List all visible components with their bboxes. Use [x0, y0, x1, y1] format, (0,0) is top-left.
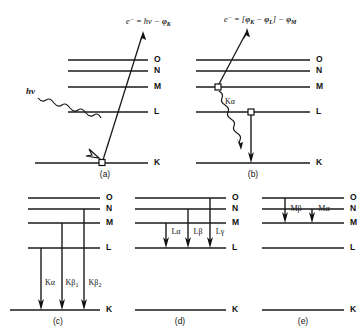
shell-label-M: M: [106, 217, 113, 227]
transition-label-L-alpha: Lα: [171, 227, 181, 236]
panel-a: O N M L K hν e− = hν − φK (a): [26, 16, 172, 179]
auger-equation: e− = [φK − φL] − φM: [224, 14, 297, 25]
panel-e: O N M L K Mβ Mα (e): [262, 192, 357, 326]
vacancy-square-M: [215, 84, 221, 90]
panel-caption-a: (a): [100, 169, 111, 179]
shell-label-K: K: [154, 157, 161, 167]
shell-label-K: K: [316, 157, 323, 167]
shell-label-N: N: [316, 65, 322, 75]
shell-label-O: O: [232, 192, 239, 202]
shell-label-L: L: [350, 242, 355, 252]
shell-label-M: M: [350, 217, 357, 227]
transition-label-L-gamma: Lγ: [216, 227, 225, 236]
panel-c: O N M L K Kα Kβ1 Kβ2 (c): [10, 192, 113, 326]
photoelectron-arrowhead: [140, 31, 147, 43]
transition-label-M-beta: Mβ: [290, 204, 301, 213]
incoming-photon-label: hν: [26, 86, 36, 96]
figure-container: O N M L K hν e− = hν − φK (a) O N M L K: [0, 0, 362, 334]
shell-label-L: L: [106, 242, 111, 252]
shell-label-M: M: [154, 81, 161, 91]
incoming-photon-arrowhead: [86, 149, 99, 158]
incoming-photon-wave: [38, 98, 101, 118]
energy-level-diagram: O N M L K hν e− = hν − φK (a) O N M L K: [0, 0, 362, 334]
transition-label-L-beta: Lβ: [194, 227, 203, 236]
shell-label-K: K: [106, 304, 113, 314]
transition-label-K-beta1: Kβ1: [66, 278, 79, 288]
panel-caption-d: (d): [175, 316, 186, 326]
shell-label-M: M: [232, 217, 239, 227]
shell-label-K: K: [350, 304, 357, 314]
panel-caption-c: (c): [53, 316, 63, 326]
shell-label-M: M: [316, 81, 323, 91]
shell-label-L: L: [316, 106, 321, 116]
shell-label-O: O: [154, 54, 161, 64]
vacancy-square-L: [248, 109, 254, 115]
shell-label-O: O: [350, 192, 357, 202]
shell-label-N: N: [350, 203, 356, 213]
transition-label-K-beta2: Kβ2: [89, 278, 102, 288]
shell-label-L: L: [154, 106, 159, 116]
photoelectron-arrow: [103, 36, 142, 160]
transition-label-K-alpha: Kα: [45, 278, 56, 287]
shell-label-N: N: [232, 203, 238, 213]
shell-label-N: N: [106, 203, 112, 213]
internal-photon-label: Kα: [225, 97, 236, 106]
panel-d: O N M L K Lα Lβ Lγ (d): [135, 192, 239, 326]
auger-electron-arrowhead: [243, 28, 250, 40]
shell-label-N: N: [154, 65, 160, 75]
shell-label-L: L: [232, 242, 237, 252]
transition-label-M-alpha: Mα: [318, 204, 330, 213]
shell-label-O: O: [316, 54, 323, 64]
photoelectron-equation: e− = hν − φK: [126, 16, 172, 27]
panel-caption-e: (e): [298, 316, 309, 326]
panel-caption-b: (b): [248, 169, 259, 179]
shell-label-K: K: [232, 304, 239, 314]
shell-label-O: O: [106, 192, 113, 202]
vacancy-square-K: [99, 160, 105, 166]
panel-b: O N M L K Kα e− = [φK − φL] − φM (b): [196, 14, 323, 179]
